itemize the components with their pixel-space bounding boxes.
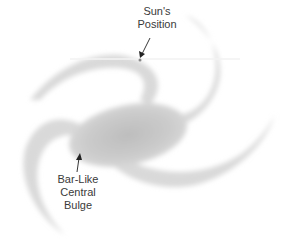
- sun-position-arrow: [139, 38, 151, 62]
- central-bulge-label: Bar-Like Central Bulge: [50, 173, 106, 212]
- bulge-label-line3: Bulge: [50, 199, 106, 212]
- galaxy-diagram: Sun's Position Bar-Like Central Bulge: [0, 0, 288, 247]
- bulge-label-line1: Bar-Like: [50, 173, 106, 186]
- bulge-label-line2: Central: [50, 186, 106, 199]
- sun-position-label: Sun's Position: [132, 5, 182, 31]
- sun-label-line1: Sun's: [132, 5, 182, 18]
- sun-label-line2: Position: [132, 18, 182, 31]
- spiral-galaxy-illustration: [0, 0, 288, 247]
